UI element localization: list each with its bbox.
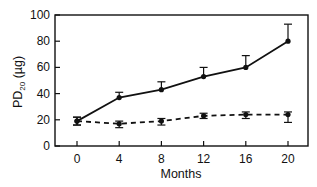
x-axis-ticks: 048121620 <box>74 141 295 166</box>
y-tick-label: 80 <box>37 34 51 48</box>
data-point <box>243 65 248 70</box>
data-point <box>201 74 206 79</box>
data-point <box>159 119 164 124</box>
x-tick-label: 12 <box>197 152 211 166</box>
x-tick-label: 8 <box>158 152 165 166</box>
y-tick-label: 40 <box>37 87 51 101</box>
series-solid <box>73 24 292 125</box>
series-dashed <box>73 112 292 128</box>
data-point <box>201 113 206 118</box>
data-point <box>159 87 164 92</box>
data-point <box>117 121 122 126</box>
data-series <box>73 24 292 127</box>
data-point <box>117 95 122 100</box>
x-axis-label: Months <box>161 167 202 181</box>
axes-frame <box>55 15 308 146</box>
x-tick-label: 0 <box>74 152 81 166</box>
y-tick-label: 20 <box>37 113 51 127</box>
data-point <box>74 119 79 124</box>
y-tick-label: 60 <box>37 60 51 74</box>
x-tick-label: 4 <box>116 152 123 166</box>
x-tick-label: 20 <box>281 152 295 166</box>
y-tick-label: 100 <box>30 8 50 22</box>
data-point <box>285 39 290 44</box>
data-point <box>243 112 248 117</box>
x-tick-label: 16 <box>239 152 253 166</box>
y-tick-label: 0 <box>43 139 50 153</box>
line-chart: 020406080100 048121620 Months PD20 (µg) <box>0 0 317 187</box>
y-axis-label: PD20 (µg) <box>11 56 27 108</box>
data-point <box>285 112 290 117</box>
